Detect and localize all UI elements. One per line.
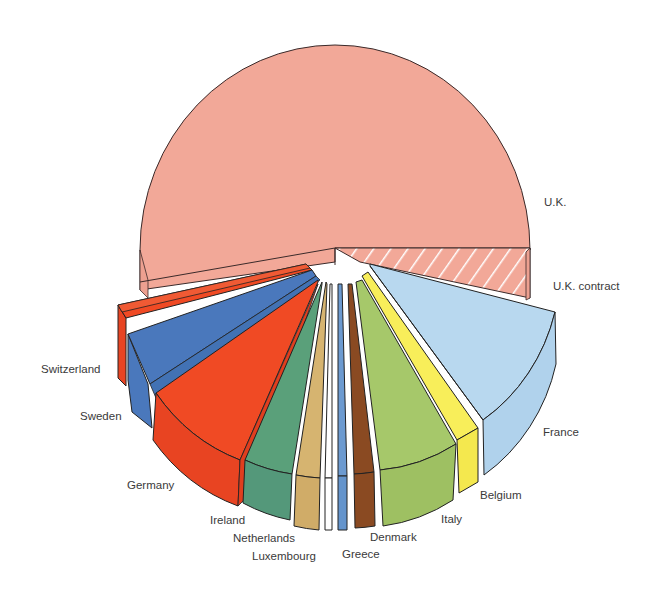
label-germany: Germany bbox=[127, 479, 174, 491]
slice-greece bbox=[338, 284, 347, 530]
pie-chart bbox=[0, 0, 661, 599]
label-france: France bbox=[543, 426, 579, 438]
label-uk-contract: U.K. contract bbox=[553, 280, 619, 292]
label-belgium: Belgium bbox=[480, 489, 522, 501]
label-ireland: Ireland bbox=[210, 514, 245, 526]
label-sweden: Sweden bbox=[80, 410, 122, 422]
label-switzerland: Switzerland bbox=[41, 363, 100, 375]
label-italy: Italy bbox=[441, 513, 462, 525]
label-uk: U.K. bbox=[544, 196, 566, 208]
label-luxembourg: Luxembourg bbox=[252, 550, 316, 562]
label-greece: Greece bbox=[342, 548, 380, 560]
label-netherlands: Netherlands bbox=[233, 532, 295, 544]
label-denmark: Denmark bbox=[370, 531, 417, 543]
